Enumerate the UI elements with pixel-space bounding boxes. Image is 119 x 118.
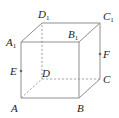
point-F-dot (99, 53, 102, 56)
edge-AD (21, 79, 42, 98)
label-C1: C1 (103, 10, 114, 24)
cube-diagram: A B C D A1 B1 C1 D1 E F (0, 0, 119, 118)
label-C: C (103, 73, 111, 85)
label-A: A (10, 102, 18, 114)
edge-C1B1 (79, 23, 100, 42)
label-B: B (77, 102, 84, 114)
edge-A1D1 (21, 23, 42, 42)
label-B1: B1 (68, 28, 79, 42)
label-F: F (102, 48, 110, 60)
point-E-dot (20, 70, 23, 73)
label-A1: A1 (5, 36, 17, 50)
label-D: D (41, 67, 50, 79)
cube-figure: A B C D A1 B1 C1 D1 E F (0, 0, 119, 118)
label-E: E (9, 65, 17, 77)
edge-CB (79, 79, 100, 98)
label-D1: D1 (37, 8, 50, 22)
